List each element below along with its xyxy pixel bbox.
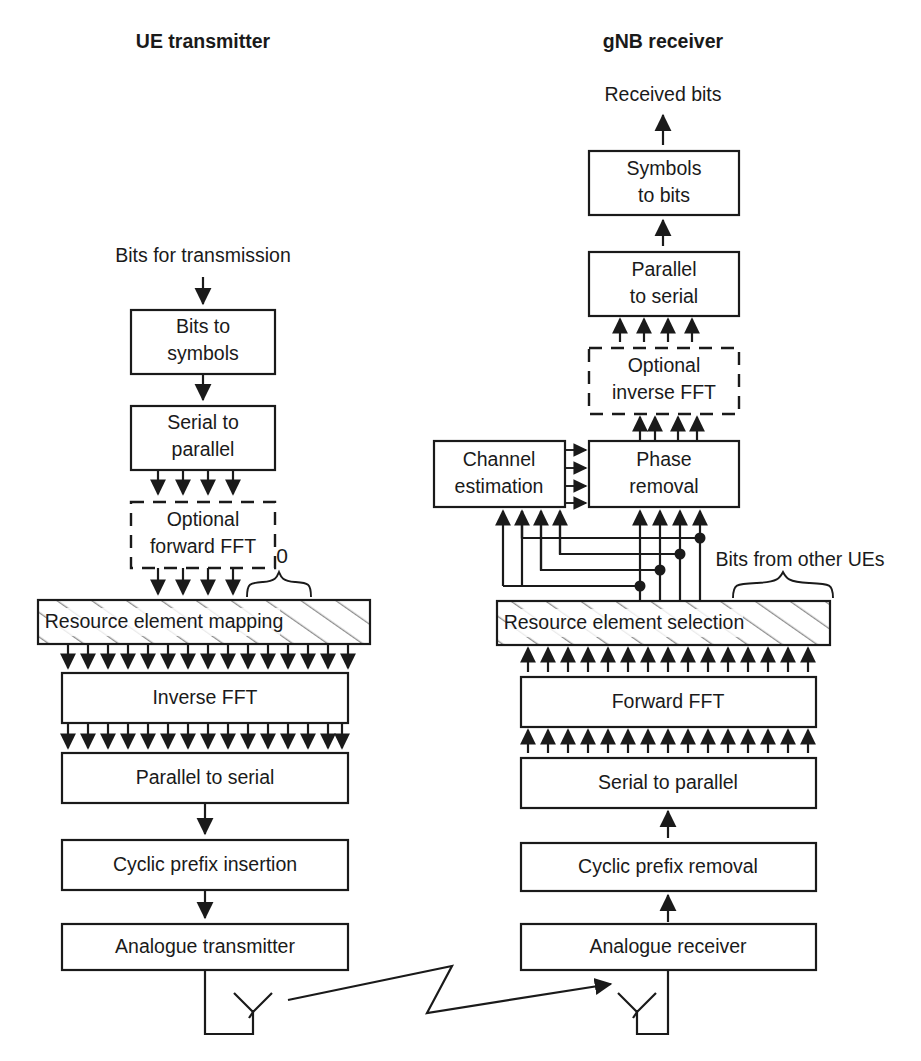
bus-phase-removal-to-optional-inverse-fft [640, 417, 697, 440]
forward-fft-label: Forward FFT [612, 690, 725, 712]
gnb-antenna [618, 970, 668, 1034]
transmitter-heading: UE transmitter [136, 30, 271, 52]
optional-forward-fft-label-2: forward FFT [150, 535, 256, 557]
bits-for-transmission-label: Bits for transmission [115, 244, 291, 266]
analogue-receiver-label: Analogue receiver [589, 935, 747, 957]
bus-serial-parallel-to-forward-fft [528, 730, 808, 753]
bus-channel-estimation-to-phase-removal [565, 450, 586, 503]
receiver-heading: gNB receiver [603, 30, 724, 52]
block-diagram-svg: UE transmitter gNB receiver Bits for tra… [0, 0, 921, 1061]
inverse-fft-label: Inverse FFT [152, 686, 257, 708]
bus-serial-to-optional-fft [158, 470, 233, 494]
bus-res-selection-to-channel-estimation [503, 511, 706, 592]
junction-dot-1 [695, 533, 706, 544]
serial-to-parallel-label-2: parallel [172, 438, 235, 460]
parallel-to-serial-rx-label-2: to serial [630, 285, 698, 307]
brace-other-ues [733, 572, 833, 598]
zero-label: 0 [276, 544, 288, 567]
resource-element-mapping-label: Resource element mapping [45, 610, 283, 632]
cyclic-prefix-insertion-label: Cyclic prefix insertion [113, 853, 297, 875]
optional-forward-fft-label-1: Optional [167, 508, 240, 530]
radio-channel-arrow [288, 966, 611, 1013]
channel-estimation-label-1: Channel [463, 448, 536, 470]
diagram-canvas: UE transmitter gNB receiver Bits for tra… [0, 0, 921, 1061]
resource-element-selection-label: Resource element selection [504, 611, 745, 633]
bus-inverse-fft-to-parallel-serial [68, 723, 342, 748]
bus-optional-fft-to-rem [158, 568, 233, 594]
serial-to-parallel-label-1: Serial to [167, 411, 239, 433]
optional-inverse-fft-label-1: Optional [628, 354, 701, 376]
junction-dot-4 [635, 581, 646, 592]
phase-removal-label-2: removal [629, 475, 698, 497]
ue-antenna [205, 970, 272, 1034]
bus-rem-to-inverse-fft [68, 644, 348, 668]
bits-from-other-ues-label: Bits from other UEs [715, 548, 884, 570]
junction-dot-3 [655, 565, 666, 576]
analogue-transmitter-label: Analogue transmitter [115, 935, 295, 957]
serial-to-parallel-rx-label: Serial to parallel [598, 771, 738, 793]
bus-optional-inverse-fft-to-ps [620, 319, 692, 342]
bits-to-symbols-label-1: Bits to [176, 315, 230, 337]
symbols-to-bits-label-1: Symbols [627, 157, 702, 179]
optional-inverse-fft-label-2: inverse FFT [612, 381, 716, 403]
symbols-to-bits-label-2: to bits [638, 184, 690, 206]
phase-removal-label-1: Phase [636, 448, 691, 470]
junction-dot-2 [675, 549, 686, 560]
parallel-to-serial-label: Parallel to serial [136, 766, 275, 788]
bus-forward-fft-to-res-selection [528, 648, 808, 672]
cyclic-prefix-removal-label: Cyclic prefix removal [578, 855, 758, 877]
brace-zero-padding [247, 572, 311, 597]
parallel-to-serial-rx-label-1: Parallel [631, 258, 696, 280]
channel-estimation-label-2: estimation [455, 475, 544, 497]
bus-res-selection-to-phase-removal [640, 511, 700, 600]
bits-to-symbols-label-2: symbols [167, 342, 239, 364]
received-bits-label: Received bits [604, 83, 721, 105]
